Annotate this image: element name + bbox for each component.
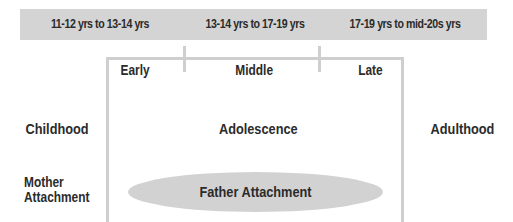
mother-attachment-line1: Mother [24,175,89,190]
divider-tick-middle-late [318,46,321,72]
divider-tick-early-middle [183,46,186,72]
age-range-late: 17-19 yrs to mid-20s yrs [333,9,478,40]
stage-middle: Middle [235,62,273,78]
mother-attachment-label: Mother Attachment [24,175,89,205]
age-range-middle: 13-14 yrs to 17-19 yrs [174,9,336,40]
period-childhood: Childhood [26,120,89,137]
age-range-early: 11-12 yrs to 13-14 yrs [32,9,168,40]
father-attachment-label: Father Attachment [147,172,364,212]
stage-late: Late [358,62,382,78]
period-adulthood: Adulthood [431,120,495,137]
age-range-bar: 11-12 yrs to 13-14 yrs 13-14 yrs to 17-1… [20,9,487,40]
mother-attachment-line2: Attachment [24,190,89,205]
period-adolescence: Adolescence [219,120,298,137]
stage-early: Early [121,62,150,78]
father-attachment-ellipse: Father Attachment [128,172,383,212]
